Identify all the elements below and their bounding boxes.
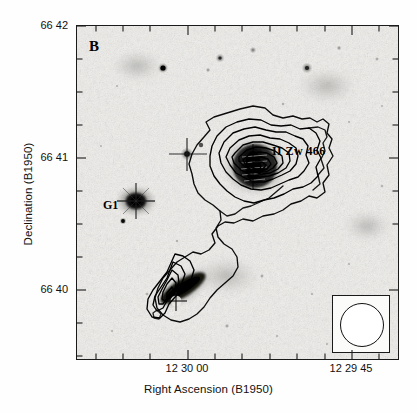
source-name-label: II Zw 466 — [272, 144, 326, 159]
companion-galaxy-label: G1 — [103, 198, 118, 213]
optical-object-star-b — [215, 53, 224, 62]
x-tick-label-12-30-00: 12 30 00 — [166, 362, 209, 374]
y-tick-label-66-42: 66 42 — [0, 19, 68, 31]
y-tick-label-66-41: 66 41 — [0, 151, 68, 163]
beam-circle — [340, 303, 384, 347]
y-axis-title: Declination (B1950) — [22, 84, 34, 304]
beam-box — [332, 295, 390, 353]
optical-object-star-c — [301, 62, 312, 73]
optical-object-star-a — [158, 63, 168, 73]
plot-area: B G1 II Zw 466 — [76, 25, 399, 360]
x-tick-label-12-29-45: 12 29 45 — [330, 362, 373, 374]
astronomy-figure: 66 42 66 41 66 40 12 30 00 12 29 45 Decl… — [0, 0, 417, 413]
y-tick-label-66-40: 66 40 — [0, 283, 68, 295]
panel-label: B — [89, 38, 99, 55]
x-axis-title: Right Ascension (B1950) — [0, 383, 417, 395]
